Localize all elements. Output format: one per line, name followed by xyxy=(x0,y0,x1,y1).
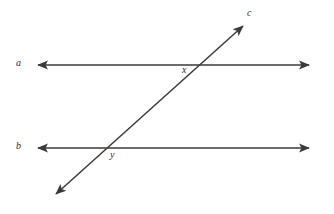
label-line-c: c xyxy=(247,8,251,18)
label-point-y: y xyxy=(110,150,114,160)
label-point-x: x xyxy=(182,65,186,75)
geometry-canvas xyxy=(0,0,334,214)
label-line-b: b xyxy=(16,141,21,151)
geometry-diagram: a b c x y xyxy=(0,0,334,214)
line-c-transversal xyxy=(56,26,243,194)
label-line-a: a xyxy=(16,58,21,68)
